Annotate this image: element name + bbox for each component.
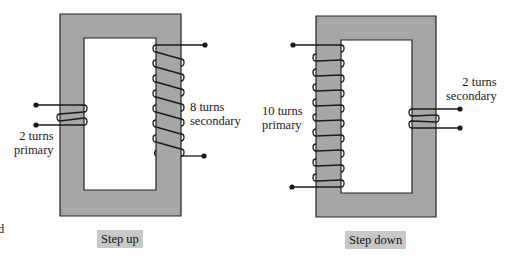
step-up-secondary-terminal-top xyxy=(202,42,207,47)
step-up-core xyxy=(60,14,181,216)
step-down-secondary-role: secondary xyxy=(446,89,497,103)
step-up-secondary-label: 8 turns secondary xyxy=(190,100,241,128)
step-up-primary-label: 2 turns primary xyxy=(14,129,54,157)
step-down-secondary-terminal-bottom xyxy=(457,125,462,130)
step-down-secondary-turns: 2 turns xyxy=(446,75,497,89)
step-up-transformer xyxy=(33,14,207,216)
edge-text-fragment: d xyxy=(0,222,4,236)
step-down-caption: Step down xyxy=(345,231,406,249)
step-up-secondary-turns: 8 turns xyxy=(190,100,241,114)
step-up-primary-terminal-bottom xyxy=(33,122,38,127)
step-up-primary-role: primary xyxy=(14,143,54,157)
step-down-primary-role: primary xyxy=(262,118,303,132)
step-down-primary-label: 10 turns primary xyxy=(262,104,303,132)
step-down-secondary-terminal-top xyxy=(457,106,462,111)
step-down-primary-terminal-top xyxy=(290,42,295,47)
step-up-primary-terminal-top xyxy=(33,102,38,107)
step-up-primary-turns: 2 turns xyxy=(14,129,54,143)
step-down-primary-turns: 10 turns xyxy=(262,104,303,118)
step-down-transformer xyxy=(289,16,462,217)
step-up-caption: Step up xyxy=(97,230,143,248)
step-down-secondary-label: 2 turns secondary xyxy=(446,75,497,103)
step-up-secondary-role: secondary xyxy=(190,114,241,128)
transformer-diagram xyxy=(0,0,506,259)
step-up-secondary-terminal-bottom xyxy=(201,153,206,158)
step-down-primary-terminal-bottom xyxy=(289,184,294,189)
